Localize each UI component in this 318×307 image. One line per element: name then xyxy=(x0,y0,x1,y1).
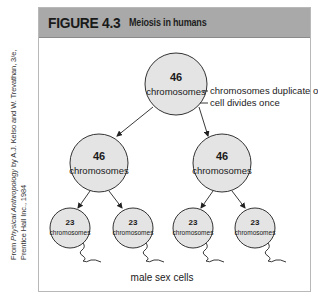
sex-cell-3-label: chromosomes xyxy=(173,229,215,236)
daughter-left-label: chromosomes xyxy=(69,165,129,176)
arrow-right-to-cell3 xyxy=(201,191,213,208)
arrow-left-to-cell1 xyxy=(78,191,90,208)
parent-cell-label: chromosomes xyxy=(146,86,206,97)
sex-cell-4: 23 chromosomes xyxy=(235,208,286,262)
arrow-parent-to-left xyxy=(117,107,153,136)
parent-cell-count: 46 xyxy=(170,71,182,83)
sex-cell-3: 23 chromosomes xyxy=(173,208,224,262)
arrow-right-to-cell4 xyxy=(232,191,245,208)
sex-cell-4-count: 23 xyxy=(251,218,260,227)
sex-cell-4-label: chromosomes xyxy=(235,229,277,236)
sex-cell-2-count: 23 xyxy=(129,218,138,227)
meiosis-diagram: 46 chromosomes chromosomes duplicate onc… xyxy=(0,0,318,307)
sex-cell-1: 23 chromosomes xyxy=(50,208,101,262)
sex-cell-2-label: chromosomes xyxy=(113,229,155,236)
annotation-duplicate: chromosomes duplicate once xyxy=(210,85,318,96)
arrow-left-to-cell2 xyxy=(109,191,122,208)
annotation-divides: cell divides once xyxy=(210,97,280,108)
daughter-right-label: chromosomes xyxy=(192,165,252,176)
sex-cell-1-label: chromosomes xyxy=(50,229,92,236)
daughter-left-count: 46 xyxy=(93,150,105,162)
sex-cell-2: 23 chromosomes xyxy=(113,208,164,262)
tail-icon xyxy=(143,243,164,262)
diagram-caption: male sex cells xyxy=(131,272,194,283)
daughter-right-count: 46 xyxy=(216,150,228,162)
parent-cell: 46 chromosomes xyxy=(145,53,207,115)
daughter-cell-right: 46 chromosomes xyxy=(192,134,252,192)
sex-cell-1-count: 23 xyxy=(66,218,75,227)
arrow-parent-to-right xyxy=(199,107,208,136)
tail-icon xyxy=(80,243,101,262)
tail-icon xyxy=(203,243,224,262)
sex-cell-3-count: 23 xyxy=(189,218,198,227)
daughter-cell-left: 46 chromosomes xyxy=(69,134,129,192)
tail-icon xyxy=(265,243,286,262)
